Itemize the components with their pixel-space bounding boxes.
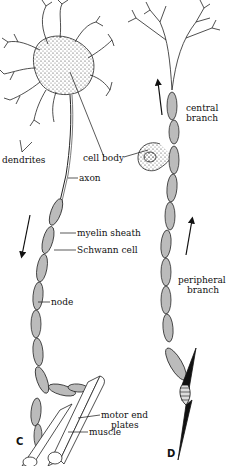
arrow-down-c	[22, 215, 30, 255]
label-central-branch-line1: central	[186, 103, 218, 113]
dendrites-leader	[20, 140, 32, 152]
label-peripheral-branch-line1: peripheral	[178, 275, 226, 285]
label-myelin-sheath: myelin sheath	[77, 228, 141, 238]
sensory-axon-myelin	[160, 92, 190, 383]
label-node: node	[51, 297, 73, 307]
label-cell-body: cell body	[83, 153, 124, 163]
label-muscle: muscle	[89, 427, 121, 437]
label-central-branch-line2: branch	[186, 113, 218, 123]
panel-label-c: C	[16, 436, 23, 447]
arrow-up-central	[158, 82, 162, 115]
label-peripheral-branch-line2: branch	[187, 285, 219, 295]
arrow-up-peripheral	[186, 220, 192, 255]
panel-label-d: D	[167, 448, 175, 459]
label-schwann-cell: Schwann cell	[77, 245, 138, 255]
label-axon: axon	[79, 173, 101, 183]
sensory-neuron	[128, 0, 220, 171]
label-dendrites: dendrites	[2, 155, 45, 165]
label-motor-end-plates-line1: motor end	[101, 410, 148, 420]
